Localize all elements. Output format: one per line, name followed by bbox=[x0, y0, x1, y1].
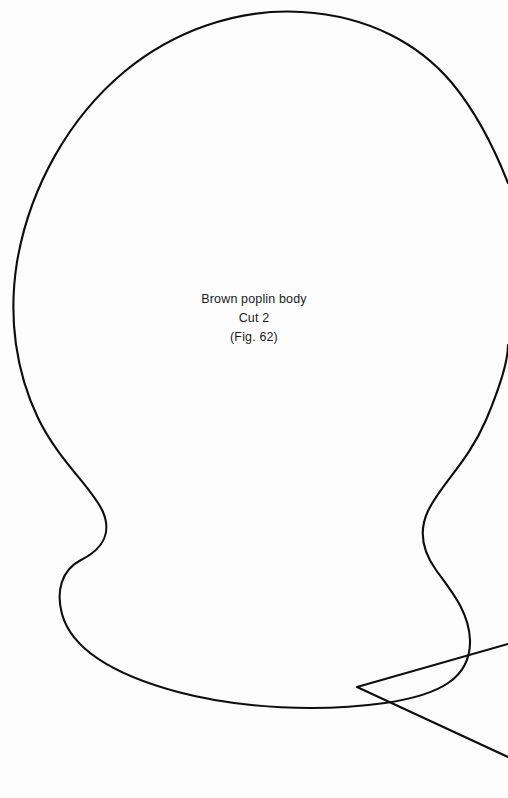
secondary-pattern-wedge-outline bbox=[357, 644, 508, 757]
brown-poplin-body-outline bbox=[13, 12, 508, 708]
pattern-sheet-page: Brown poplin body Cut 2 (Fig. 62) bbox=[0, 0, 508, 798]
pattern-outlines-canvas bbox=[0, 0, 508, 798]
